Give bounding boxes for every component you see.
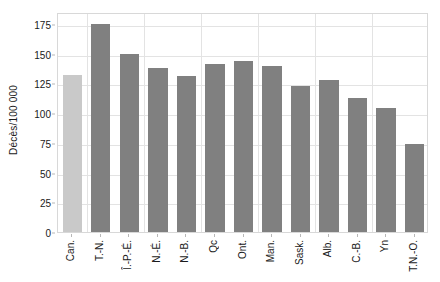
x-axis-tick-mark [71, 234, 72, 237]
x-axis-tick-label: Alb. [323, 240, 333, 257]
bar[interactable] [291, 86, 310, 232]
x-axis-tick-label: Yn [380, 240, 390, 252]
x-axis-tick-label: Can. [66, 240, 76, 261]
bar[interactable] [177, 76, 196, 232]
y-axis-tick-mark [52, 84, 55, 85]
x-axis-tick-label: Î.-P.-É. [123, 240, 133, 270]
y-axis-tick-label: 75 [40, 138, 51, 149]
bar[interactable] [319, 80, 338, 232]
y-axis-tick-label: 25 [40, 198, 51, 209]
bar[interactable] [262, 66, 281, 232]
x-axis-tick-label: Man. [266, 240, 276, 262]
x-axis-tick-label: T.N.-O. [409, 240, 419, 272]
x-axis-tick-mark [414, 234, 415, 237]
y-axis-tick-label: 0 [45, 228, 51, 239]
y-axis-tick-mark [52, 203, 55, 204]
y-axis-tick-label: 150 [34, 49, 51, 60]
bar[interactable] [348, 98, 367, 232]
bar-chart-figure: Décès/100 000 0255075100125150175 Can.T.… [0, 0, 440, 282]
x-axis-tick-label: N.-É. [152, 240, 162, 263]
x-axis-tick-mark [271, 234, 272, 237]
bar[interactable] [234, 61, 253, 232]
x-axis-tick-label: Qc [209, 240, 219, 253]
y-axis-tick-mark [52, 54, 55, 55]
bar[interactable] [63, 75, 82, 232]
y-axis-tick-label: 125 [34, 79, 51, 90]
bar[interactable] [148, 68, 167, 232]
bar[interactable] [91, 24, 110, 232]
bar[interactable] [205, 64, 224, 232]
x-axis-tick-mark [157, 234, 158, 237]
bar[interactable] [120, 54, 139, 232]
y-axis-tick-label: 175 [34, 19, 51, 30]
x-axis-tick-label: T.-N. [95, 240, 105, 261]
x-axis-tick-mark [328, 234, 329, 237]
plot-area [57, 13, 428, 233]
y-axis-title-text: Décès/100 000 [8, 85, 19, 155]
x-axis-tick-mark [214, 234, 215, 237]
x-axis-tick-labels: Can.T.-N.Î.-P.-É.N.-É.N.-B.QcOnt.Man.Sas… [57, 234, 428, 282]
x-axis-tick-label: Ont. [238, 240, 248, 259]
bar-series [58, 14, 427, 232]
y-axis-tick-mark [52, 173, 55, 174]
x-axis-tick-mark [300, 234, 301, 237]
y-axis-tick-labels: 0255075100125150175 [22, 13, 55, 233]
y-axis-tick-mark [52, 143, 55, 144]
y-axis-tick-mark [52, 24, 55, 25]
x-axis-tick-label: Sask. [295, 240, 305, 265]
x-axis-tick-mark [243, 234, 244, 237]
bar[interactable] [376, 108, 395, 232]
x-axis-tick-mark [385, 234, 386, 237]
x-axis-tick-mark [185, 234, 186, 237]
bar[interactable] [405, 144, 424, 232]
x-axis-tick-mark [357, 234, 358, 237]
y-axis-title: Décès/100 000 [4, 0, 22, 240]
x-axis-tick-mark [100, 234, 101, 237]
y-axis-tick-label: 100 [34, 109, 51, 120]
y-axis-tick-mark [52, 114, 55, 115]
y-axis-tick-mark [52, 233, 55, 234]
x-axis-tick-label: N.-B. [180, 240, 190, 263]
x-axis-tick-label: C.-B. [352, 240, 362, 263]
x-axis-tick-mark [128, 234, 129, 237]
y-axis-tick-label: 50 [40, 168, 51, 179]
